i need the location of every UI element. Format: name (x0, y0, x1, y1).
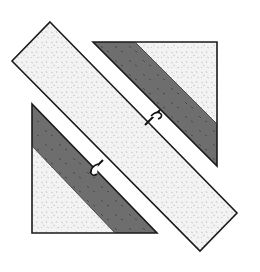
seam-marker-upper (145, 110, 162, 125)
diagram-canvas (0, 0, 260, 272)
seam-marker-lower (90, 160, 103, 175)
quilt-diagram: Quilt block: diagonal strip with two hal… (0, 0, 260, 272)
